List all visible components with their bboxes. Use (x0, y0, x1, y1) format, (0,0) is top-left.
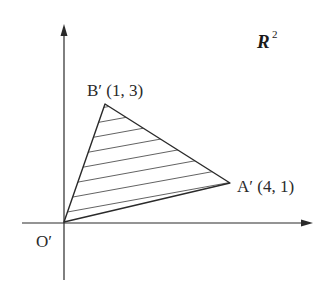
label-origin: O′ (36, 232, 52, 251)
x-axis-arrow-icon (301, 220, 313, 227)
space-superscript: 2 (272, 28, 278, 40)
triangle-hatching (40, 79, 260, 231)
coordinate-diagram: B′ (1, 3) A′ (4, 1) O′ R 2 (0, 0, 324, 288)
space-label: R (256, 31, 270, 52)
label-b-prime: B′ (1, 3) (87, 81, 143, 100)
triangle-oab (64, 104, 230, 222)
label-a-prime: A′ (4, 1) (237, 177, 294, 196)
y-axis-arrow-icon (61, 24, 68, 36)
